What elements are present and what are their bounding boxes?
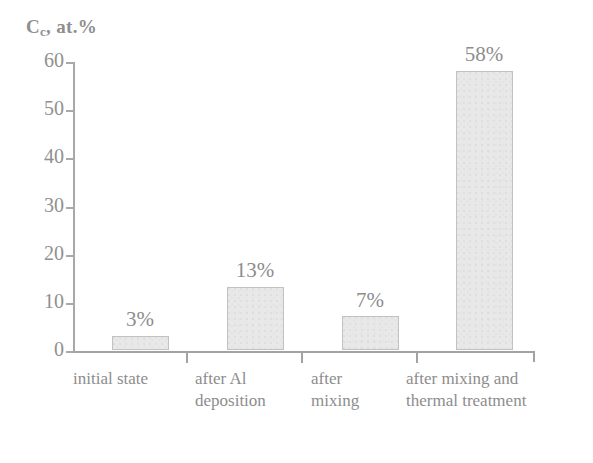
category-label-initial-state: initial state bbox=[73, 368, 191, 390]
bar-chart-figure: Cc, at.% 60 50 40 30 20 10 bbox=[0, 0, 593, 463]
x-tick-mark bbox=[301, 353, 303, 363]
bar-after-mixing-and-thermal-treatment bbox=[456, 71, 513, 350]
x-tick-mark bbox=[186, 353, 188, 363]
y-tick-label: 50 bbox=[44, 98, 64, 118]
y-tick-mark bbox=[66, 158, 74, 160]
y-tick-mark bbox=[66, 303, 74, 305]
y-tick-mark bbox=[66, 351, 74, 353]
bar-initial-state bbox=[112, 336, 169, 351]
y-tick-mark bbox=[66, 207, 74, 209]
category-label-after-mixing-and-thermal-treatment: after mixing and thermal treatment bbox=[406, 368, 546, 413]
bar-after-al-deposition bbox=[227, 287, 284, 350]
x-axis-category-labels: initial state after Al deposition after … bbox=[73, 368, 543, 463]
y-tick-mark bbox=[66, 110, 74, 112]
plot-area: 60 50 40 30 20 10 0 bbox=[73, 62, 535, 352]
y-tick-label: 40 bbox=[44, 146, 64, 166]
x-axis-end-cap bbox=[533, 351, 535, 362]
y-tick-mark bbox=[66, 255, 74, 257]
value-label-after-al-deposition: 13% bbox=[220, 260, 290, 281]
category-label-after-al-deposition: after Al deposition bbox=[195, 368, 299, 413]
category-label-after-mixing: after mixing bbox=[311, 368, 391, 413]
y-tick-label: 10 bbox=[44, 291, 64, 311]
value-label-after-mixing: 7% bbox=[335, 290, 405, 311]
value-label-after-mixing-and-thermal-treatment: 58% bbox=[449, 44, 519, 65]
value-label-initial-state: 3% bbox=[105, 309, 175, 330]
y-tick-label: 60 bbox=[44, 50, 64, 70]
y-tick-label: 30 bbox=[44, 195, 64, 215]
y-axis-title: Cc, at.% bbox=[26, 16, 97, 40]
y-tick-label: 20 bbox=[44, 243, 64, 263]
y-tick-label: 0 bbox=[54, 339, 64, 359]
bar-after-mixing bbox=[342, 316, 399, 350]
x-tick-mark bbox=[416, 353, 418, 363]
y-axis-title-symbol: C bbox=[26, 16, 40, 37]
x-axis-line bbox=[73, 351, 535, 353]
y-axis-title-units: , at.% bbox=[46, 16, 97, 37]
y-tick-mark bbox=[66, 62, 74, 64]
